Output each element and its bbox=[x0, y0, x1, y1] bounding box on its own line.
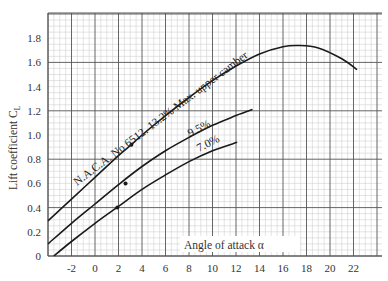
y-tick-label: 1.8 bbox=[27, 32, 41, 44]
y-axis-title: Lift coefficient CL bbox=[7, 105, 22, 190]
x-tick-label: 10 bbox=[207, 262, 219, 274]
x-tick-label: 8 bbox=[186, 262, 192, 274]
x-tick-label: -2 bbox=[67, 262, 76, 274]
y-tick-label: 1.0 bbox=[27, 129, 41, 141]
lift-coefficient-chart: -20246810121416182022 00.20.40.60.81.01.… bbox=[0, 0, 388, 281]
y-tick-label: 0.6 bbox=[27, 177, 41, 189]
x-tick-label: 6 bbox=[163, 262, 169, 274]
x-tick-label: 2 bbox=[116, 262, 122, 274]
y-axis-title-main: Lift coefficient C bbox=[7, 110, 19, 190]
curve-labels: N.A.C.A. No 6512. 13.2% Max. upper cambe… bbox=[71, 49, 251, 189]
y-tick-label: 1.2 bbox=[27, 105, 41, 117]
x-tick-label: 14 bbox=[254, 262, 266, 274]
x-axis-ticks: -20246810121416182022 bbox=[67, 262, 359, 274]
y-tick-label: 0.8 bbox=[27, 153, 41, 165]
x-tick-label: 16 bbox=[278, 262, 290, 274]
y-tick-label: 1.6 bbox=[27, 56, 41, 68]
svg-text:Lift coefficient CL: Lift coefficient CL bbox=[7, 105, 22, 190]
data-point-marker bbox=[115, 206, 119, 210]
x-tick-label: 22 bbox=[348, 262, 359, 274]
y-axis-title-sub: L bbox=[13, 105, 22, 110]
y-tick-label: 0 bbox=[36, 250, 42, 262]
y-tick-label: 0.4 bbox=[27, 202, 41, 214]
curve-0 bbox=[48, 45, 357, 221]
x-tick-label: 18 bbox=[301, 262, 313, 274]
x-tick-label: 4 bbox=[139, 262, 145, 274]
curve-label-6512: N.A.C.A. No 6512. 13.2% Max. upper cambe… bbox=[71, 49, 251, 189]
x-tick-label: 12 bbox=[231, 262, 242, 274]
y-tick-label: 0.2 bbox=[27, 226, 41, 238]
y-tick-label: 1.4 bbox=[27, 81, 41, 93]
svg-text:7.0%: 7.0% bbox=[194, 132, 221, 154]
x-tick-label: 0 bbox=[92, 262, 98, 274]
y-axis-ticks: 00.20.40.60.81.01.21.41.61.8 bbox=[27, 32, 41, 262]
svg-text:N.A.C.A. No 6512. 13.2% Max. u: N.A.C.A. No 6512. 13.2% Max. upper cambe… bbox=[71, 49, 251, 189]
data-point-marker bbox=[124, 181, 128, 185]
x-axis-title: Angle of attack α bbox=[184, 239, 264, 252]
x-tick-label: 20 bbox=[325, 262, 337, 274]
curve-label-7-0: 7.0% bbox=[194, 132, 221, 154]
